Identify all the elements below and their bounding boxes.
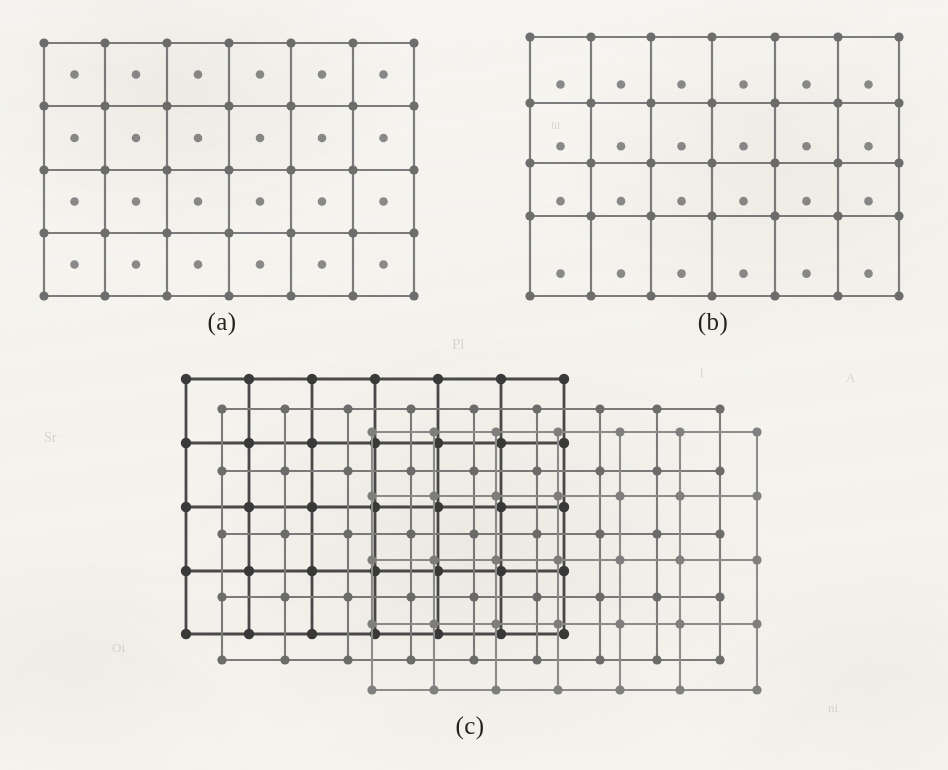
grid-c-dark-node-r1-c0 [181,438,191,448]
grid-a-main-cell-dot-r1-c0 [70,134,79,143]
grid-b-main-cell-dot-r3-c3 [739,269,748,278]
grid-b-main-node-r1-c4 [770,98,779,107]
grid-a-main-node-r1-c6 [409,101,418,110]
grid-b-main-node-r4-c4 [770,291,779,300]
grid-c-dark-node-r2-c0 [181,502,191,512]
grid-a-main-cell-dot-r2-c2 [194,197,203,206]
grid-c-light-node-r1-c5 [675,491,684,500]
grid-c-mid-node-r3-c8 [715,592,724,601]
grid-c-light-node-r4-c1 [429,685,438,694]
grid-c-light-node-r0-c6 [752,427,761,436]
grid-c-light-node-r2-c0 [367,555,376,564]
grid-c-dark-node-r3-c2 [307,566,317,576]
grid-c-mid-node-r4-c4 [469,655,478,664]
panel-a-graphic [39,38,418,300]
grid-c-light-node-r1-c1 [429,491,438,500]
grid-c-dark-node-r2-c5 [496,502,506,512]
grid-c-light-node-r1-c6 [752,491,761,500]
grid-c-mid-node-r1-c0 [217,466,226,475]
grid-c-mid-node-r2-c5 [532,529,541,538]
grid-c-light-node-r2-c6 [752,555,761,564]
panel-b-graphic [525,32,903,300]
grid-b-main-cell-dot-r2-c5 [864,197,873,206]
grid-a-main-cell-dot-r2-c1 [132,197,141,206]
grid-b-main-node-r2-c2 [646,158,655,167]
grid-b-main-cell-dot-r1-c5 [864,142,873,151]
grid-a-main-node-r0-c6 [409,38,418,47]
grid-b-main [525,32,903,300]
grid-b-main-node-r1-c2 [646,98,655,107]
grid-b-main-node-r2-c0 [525,158,534,167]
grid-b-main-node-r1-c1 [586,98,595,107]
grid-c-mid-node-r0-c6 [595,404,604,413]
grid-b-main-node-r1-c5 [833,98,842,107]
grid-c-mid-node-r1-c1 [280,466,289,475]
grid-b-main-node-r0-c1 [586,32,595,41]
grid-a-main-node-r3-c3 [224,228,233,237]
grid-c-light-node-r1-c4 [615,491,624,500]
grid-a-main-node-r2-c6 [409,165,418,174]
grid-c-light-node-r2-c3 [553,555,562,564]
grid-a-main-cell-dot-r1-c4 [318,134,327,143]
grid-b-main-node-r1-c3 [707,98,716,107]
grid-c-dark-node-r4-c1 [244,629,254,639]
grid-c-dark-node-r0-c2 [307,374,317,384]
grid-c-mid-node-r2-c4 [469,529,478,538]
grid-a-main-cell-dot-r0-c5 [379,70,388,79]
grid-a-main-node-r0-c4 [286,38,295,47]
grid-b-main-cell-dot-r3-c5 [864,269,873,278]
grid-b-main-cell-dot-r0-c3 [739,80,748,89]
grid-a-main-cell-dot-r2-c4 [318,197,327,206]
grid-c-dark-node-r1-c5 [496,438,506,448]
figure-canvas: PllilSrAOinil (a) (b) (c) [0,0,948,770]
grid-c-light-node-r0-c2 [491,427,500,436]
grid-c-light-node-r3-c1 [429,619,438,628]
grid-a-main-node-r1-c3 [224,101,233,110]
grid-b-main-cell-dot-r2-c1 [617,197,626,206]
grid-c-dark-node-r4-c0 [181,629,191,639]
grid-c-dark-node-r2-c1 [244,502,254,512]
grid-b-main-node-r1-c6 [894,98,903,107]
grid-c-mid-node-r2-c8 [715,529,724,538]
grid-a-main-node-r4-c0 [39,291,48,300]
grid-c-light-node-r3-c0 [367,619,376,628]
grid-a-main-node-r0-c0 [39,38,48,47]
grid-a-main-node-r2-c4 [286,165,295,174]
panel-c-graphic [181,374,762,695]
grid-c-light-node-r2-c1 [429,555,438,564]
grid-b-main-cell-dot-r1-c4 [802,142,811,151]
grid-c-light-node-r3-c2 [491,619,500,628]
grid-c-mid-node-r0-c0 [217,404,226,413]
grid-a-main-node-r1-c2 [162,101,171,110]
grid-a-main-cell-dot-r3-c2 [194,260,203,269]
grid-c-light-node-r1-c3 [553,491,562,500]
grid-c-dark-node-r3-c1 [244,566,254,576]
grid-a-main-cell-dot-r0-c0 [70,70,79,79]
grid-c-mid-node-r1-c5 [532,466,541,475]
grid-a-main-node-r3-c6 [409,228,418,237]
grid-b-main-node-r3-c1 [586,211,595,220]
grid-b-main-cell-dot-r3-c2 [677,269,686,278]
grid-c-dark-node-r3-c6 [559,566,569,576]
grid-c-mid-node-r3-c7 [652,592,661,601]
grid-c-mid-node-r4-c0 [217,655,226,664]
grid-b-main-cell-dot-r1-c3 [739,142,748,151]
grid-b-main-node-r3-c3 [707,211,716,220]
grid-a-main-cell-dot-r1-c3 [256,134,265,143]
grid-a-main-node-r3-c0 [39,228,48,237]
grid-b-main-cell-dot-r0-c4 [802,80,811,89]
grid-c-mid-node-r1-c3 [406,466,415,475]
grid-a-main-node-r1-c5 [348,101,357,110]
grid-a-main-cell-dot-r0-c2 [194,70,203,79]
grid-layer [0,0,948,770]
grid-c-mid-node-r2-c3 [406,529,415,538]
grid-c-light-node-r4-c2 [491,685,500,694]
grid-c-light-node-r2-c5 [675,555,684,564]
grid-c-mid-node-r4-c5 [532,655,541,664]
grid-c-dark-node-r0-c5 [496,374,506,384]
grid-b-main-node-r0-c0 [525,32,534,41]
grid-a-main-cell-dot-r0-c1 [132,70,141,79]
grid-c-mid-node-r3-c1 [280,592,289,601]
grid-a-main-cell-dot-r0-c3 [256,70,265,79]
grid-c-mid-node-r2-c0 [217,529,226,538]
